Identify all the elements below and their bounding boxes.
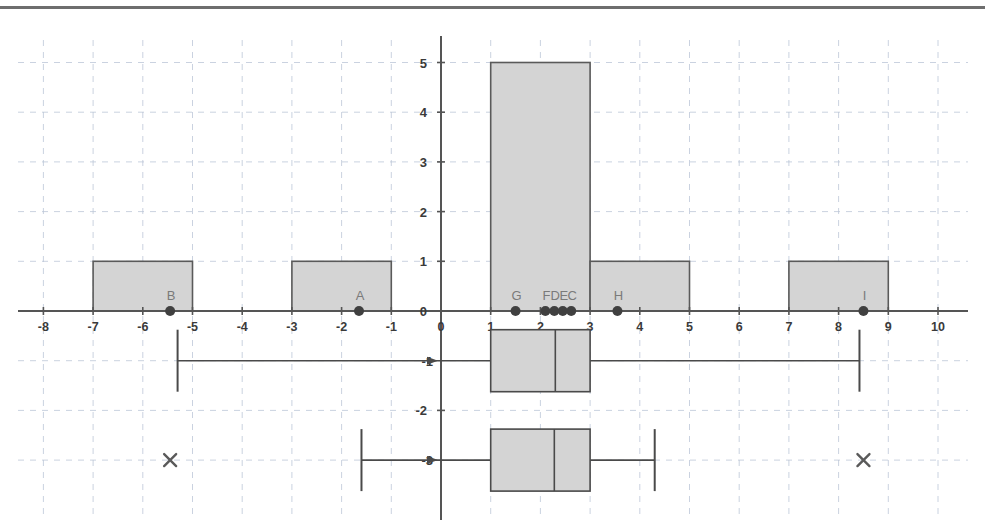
boxplot-upper[interactable] — [178, 330, 860, 392]
data-point-b[interactable] — [165, 306, 175, 316]
y-axis-tick-label: 1 — [420, 254, 427, 269]
box-iqr[interactable] — [491, 429, 590, 491]
x-axis-tick-label: 5 — [686, 320, 693, 334]
data-point-h[interactable] — [612, 306, 622, 316]
y-axis-tick-label: 0 — [420, 304, 427, 319]
y-axis-tick-label: 2 — [420, 205, 427, 220]
chart-canvas: -8-7-6-5-4-3-2-1012345678910012345-2-1-3… — [0, 0, 985, 528]
point-label-i: I — [863, 288, 867, 303]
point-label-b: B — [167, 288, 176, 303]
x-axis-tick-label: -7 — [88, 320, 99, 334]
x-axis-tick-label: -6 — [137, 320, 148, 334]
box-iqr[interactable] — [491, 330, 590, 392]
x-axis-tick-label: 4 — [636, 320, 643, 334]
y-axis-tick-label: -2 — [415, 403, 427, 418]
data-point-i[interactable] — [858, 306, 868, 316]
y-axis-tick-label: 3 — [420, 155, 427, 170]
statistics-plot: -8-7-6-5-4-3-2-1012345678910012345-2-1-3… — [0, 0, 985, 528]
point-label-g: G — [511, 288, 521, 303]
data-point-a[interactable] — [354, 306, 364, 316]
data-point-c[interactable] — [566, 306, 576, 316]
x-axis-tick-label: -8 — [38, 320, 49, 334]
x-axis-tick-label: -3 — [286, 320, 297, 334]
x-axis-tick-label: 9 — [885, 320, 892, 334]
x-axis-tick-label: -5 — [187, 320, 198, 334]
x-axis-tick-label: 0 — [438, 320, 445, 334]
point-label-f: F — [542, 288, 550, 303]
histogram-bar — [292, 261, 391, 311]
histogram-bar — [789, 261, 888, 311]
point-label-a: A — [356, 288, 365, 303]
x-axis-tick-label: 6 — [736, 320, 743, 334]
histogram-bar — [93, 261, 192, 311]
point-label-c: C — [568, 288, 577, 303]
x-axis-tick-label: -1 — [386, 320, 397, 334]
data-point-f[interactable] — [540, 306, 550, 316]
y-axis-tick-label: 5 — [420, 56, 427, 71]
point-label-h: H — [614, 288, 623, 303]
x-axis-tick-label: 8 — [835, 320, 842, 334]
histogram-bar — [491, 63, 590, 312]
data-point-g[interactable] — [511, 306, 521, 316]
y-axis-tick-label: 4 — [420, 105, 428, 120]
x-axis-tick-label: 7 — [785, 320, 792, 334]
x-axis-tick-label: -4 — [237, 320, 248, 334]
x-axis-tick-label: 10 — [931, 320, 945, 334]
x-axis-tick-label: -2 — [336, 320, 347, 334]
histogram-bar — [590, 261, 689, 311]
